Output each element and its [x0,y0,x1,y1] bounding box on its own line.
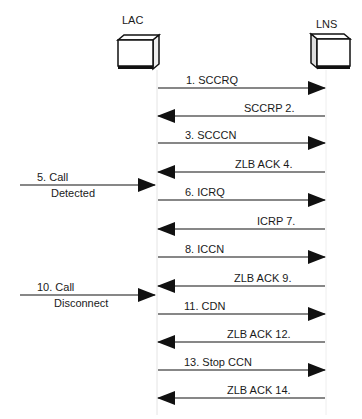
message-label-14: ZLB ACK 14. [227,384,291,396]
message-label-9: ZLB ACK 9. [234,272,291,284]
l2tp-sequence-diagram: LAC LNS 1. SCCRQ SCCRP 2. 3. SCCCN ZLB A… [0,0,362,419]
message-label-2: SCCRP 2. [244,102,295,114]
lac-box-icon [118,35,159,69]
lns-label: LNS [316,18,337,30]
message-label-8: 8. ICCN [185,243,224,255]
lns-box-icon [311,34,350,69]
event-10-line2: Disconnect [54,297,108,309]
event-10-line1: 10. Call [37,281,74,293]
message-label-11: 11. CDN [184,300,225,312]
message-label-13: 13. Stop CCN [184,356,252,368]
message-label-1: 1. SCCRQ [186,74,238,86]
diagram-canvas [0,0,362,419]
message-label-3: 3. SCCCN [185,129,236,141]
event-5-line1: 5. Call [37,171,68,183]
message-label-4: ZLB ACK 4. [235,158,292,170]
message-label-12: ZLB ACK 12. [227,328,291,340]
message-label-6: 6. ICRQ [185,186,225,198]
event-5-line2: Detected [51,187,95,199]
lac-label: LAC [122,14,143,26]
message-arrows [20,88,325,398]
message-label-7: ICRP 7. [257,215,295,227]
